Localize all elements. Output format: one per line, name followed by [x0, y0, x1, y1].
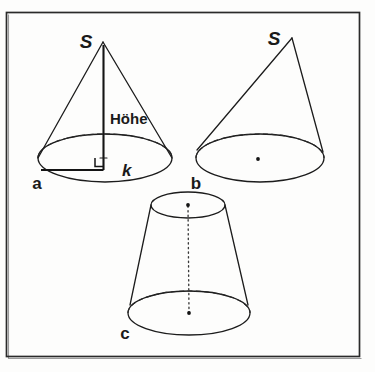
figure-container: S Höhe k a S b	[0, 0, 375, 372]
canvas-background	[0, 0, 375, 372]
part-label-a: a	[32, 174, 42, 193]
part-label-c: c	[120, 324, 129, 343]
cone-diagram: S Höhe k a S b	[0, 0, 375, 372]
cone-a-height-label: Höhe	[110, 110, 148, 127]
part-label-b: b	[191, 174, 201, 193]
cone-a-radius-label: k	[122, 161, 133, 180]
cone-a-apex-label: S	[80, 31, 93, 52]
cone-b-centre-dot	[256, 157, 260, 161]
frustum-c-bottom-centre-dot	[187, 311, 191, 315]
cone-b-apex-label: S	[268, 28, 281, 49]
frustum-c-top-centre-dot	[186, 203, 190, 207]
